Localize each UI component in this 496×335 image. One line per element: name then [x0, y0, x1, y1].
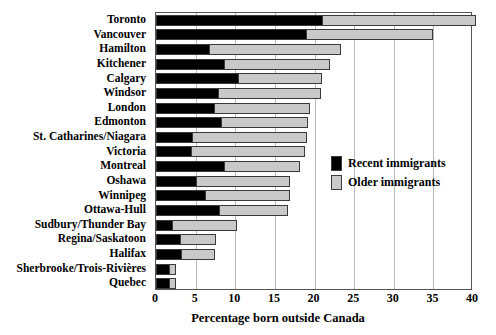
bar-row	[156, 232, 216, 247]
bar-segment-older-immigrants	[169, 265, 175, 274]
y-axis-label: Sherbrooke/Trois-Rivières	[0, 261, 146, 276]
bar-rows	[156, 13, 471, 289]
x-tick-35: 35	[426, 291, 438, 306]
x-tick-15: 15	[268, 291, 280, 306]
bar-row	[156, 57, 330, 72]
bar-row	[156, 276, 176, 291]
stacked-bar	[156, 59, 330, 70]
bar-row	[156, 145, 305, 160]
bar-segment-older-immigrants	[192, 133, 306, 142]
bar-segment-recent-immigrants	[157, 45, 209, 54]
bar-segment-older-immigrants	[205, 191, 289, 200]
bar-row	[156, 28, 433, 43]
y-axis-label: Halifax	[0, 246, 146, 261]
stacked-bar	[156, 29, 433, 40]
y-axis-label: Victoria	[0, 144, 146, 159]
bar-segment-recent-immigrants	[157, 74, 238, 83]
y-axis-label: Toronto	[0, 12, 146, 27]
x-tick-40: 40	[466, 291, 478, 306]
y-axis-label: Montreal	[0, 158, 146, 173]
stacked-bar	[156, 103, 310, 114]
bar-row	[156, 262, 176, 277]
y-axis-label: London	[0, 100, 146, 115]
stacked-bar	[156, 264, 176, 275]
bar-segment-older-immigrants	[191, 147, 304, 156]
stacked-bar	[156, 88, 321, 99]
bar-segment-recent-immigrants	[157, 118, 221, 127]
bar-segment-recent-immigrants	[157, 30, 306, 39]
y-axis-category-labels: TorontoVancouverHamiltonKitchenerCalgary…	[0, 12, 150, 290]
immigrant-population-bar-chart: TorontoVancouverHamiltonKitchenerCalgary…	[0, 0, 496, 335]
bar-segment-recent-immigrants	[157, 16, 322, 25]
bar-segment-older-immigrants	[306, 30, 432, 39]
bar-segment-older-immigrants	[219, 206, 287, 215]
bar-segment-older-immigrants	[169, 279, 175, 288]
stacked-bar	[156, 176, 290, 187]
bar-segment-recent-immigrants	[157, 265, 169, 274]
bar-segment-recent-immigrants	[157, 89, 218, 98]
bar-segment-older-immigrants	[214, 104, 309, 113]
grey-square-icon	[331, 175, 342, 190]
y-axis-label: Windsor	[0, 85, 146, 100]
stacked-bar	[156, 190, 290, 201]
bar-row	[156, 72, 322, 87]
stacked-bar	[156, 278, 176, 289]
bar-row	[156, 42, 341, 57]
stacked-bar	[156, 44, 341, 55]
x-tick-5: 5	[192, 291, 198, 306]
legend-item-older-immigrants: Older immigrants	[331, 174, 481, 190]
x-axis-title: Percentage born outside Canada	[0, 311, 496, 326]
bar-segment-older-immigrants	[172, 221, 236, 230]
x-tick-30: 30	[387, 291, 399, 306]
bar-row	[156, 174, 290, 189]
bar-row	[156, 130, 307, 145]
bar-segment-older-immigrants	[238, 74, 321, 83]
bar-row	[156, 13, 476, 28]
stacked-bar	[156, 161, 300, 172]
bar-segment-recent-immigrants	[157, 250, 181, 259]
bar-segment-recent-immigrants	[157, 191, 205, 200]
stacked-bar	[156, 117, 308, 128]
bar-segment-older-immigrants	[221, 118, 307, 127]
y-axis-label: St. Catharines/Niagara	[0, 129, 146, 144]
bar-segment-older-immigrants	[180, 235, 215, 244]
stacked-bar	[156, 146, 305, 157]
plot-area	[155, 12, 472, 290]
legend-item-recent-immigrants: Recent immigrants	[331, 155, 481, 171]
legend-label-older-immigrants: Older immigrants	[348, 175, 440, 190]
bar-row	[156, 86, 321, 101]
stacked-bar	[156, 73, 322, 84]
stacked-bar	[156, 132, 307, 143]
bar-segment-recent-immigrants	[157, 177, 196, 186]
x-tick-25: 25	[347, 291, 359, 306]
y-axis-label: Quebec	[0, 275, 146, 290]
bar-segment-older-immigrants	[322, 16, 475, 25]
bar-segment-recent-immigrants	[157, 235, 180, 244]
bar-row	[156, 218, 237, 233]
y-axis-label: Hamilton	[0, 41, 146, 56]
black-square-icon	[331, 156, 342, 171]
bar-segment-older-immigrants	[209, 45, 340, 54]
bar-segment-recent-immigrants	[157, 162, 224, 171]
bar-row	[156, 101, 310, 116]
y-axis-label: Ottawa-Hull	[0, 202, 146, 217]
bar-row	[156, 115, 308, 130]
x-tick-0: 0	[152, 291, 158, 306]
bar-row	[156, 247, 215, 262]
bar-segment-recent-immigrants	[157, 147, 191, 156]
y-axis-label: Vancouver	[0, 27, 146, 42]
y-axis-label: Sudbury/Thunder Bay	[0, 217, 146, 232]
bar-segment-older-immigrants	[181, 250, 214, 259]
bar-segment-recent-immigrants	[157, 221, 172, 230]
y-axis-label: Oshawa	[0, 173, 146, 188]
chart-legend: Recent immigrants Older immigrants	[331, 155, 481, 193]
stacked-bar	[156, 220, 237, 231]
stacked-bar	[156, 249, 215, 260]
y-axis-label: Calgary	[0, 71, 146, 86]
bar-row	[156, 203, 288, 218]
bar-segment-recent-immigrants	[157, 133, 192, 142]
bar-segment-recent-immigrants	[157, 279, 169, 288]
bar-segment-older-immigrants	[224, 162, 300, 171]
y-axis-label: Regina/Saskatoon	[0, 231, 146, 246]
stacked-bar	[156, 15, 476, 26]
